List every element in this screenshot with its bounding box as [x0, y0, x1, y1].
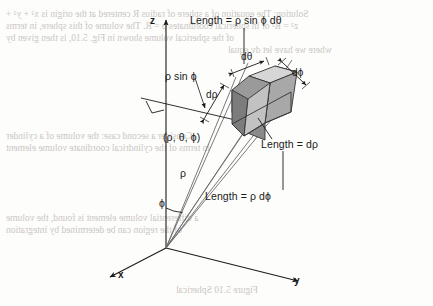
rho-sin-phi-line [141, 78, 244, 122]
label-rho-sin-phi: ρ sin ϕ [165, 71, 197, 82]
label-d-theta: dθ [241, 52, 252, 62]
label-phi: ϕ [159, 198, 165, 209]
axis-label-z: z [150, 16, 155, 26]
label-point-coords: (ρ, θ, ϕ) [163, 132, 200, 143]
phi-angle-arc [166, 208, 183, 213]
label-d-rho: dρ [206, 90, 217, 100]
label-d-phi: dϕ [292, 68, 303, 78]
axis-y [166, 248, 298, 281]
axis-label-y: y [294, 276, 300, 286]
axis-label-x: x [118, 270, 124, 280]
label-length-rho-d-phi: Length = ρ dϕ [205, 191, 271, 202]
figure-container: Solution: The equation of a sphere of ra… [0, 0, 433, 306]
label-rho: ρ [180, 168, 186, 179]
diagram-svg [0, 0, 433, 306]
label-length-d-rho: Length = dρ [261, 139, 318, 150]
label-length-rho-sin-phi-dtheta: Length = ρ sin ϕ dθ [190, 15, 282, 26]
